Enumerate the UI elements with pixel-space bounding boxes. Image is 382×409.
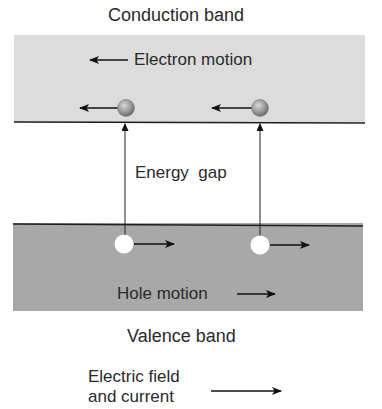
electric-field-label-line2: and current	[88, 388, 174, 405]
electron-motion-label: Electron motion	[134, 51, 252, 68]
hole-1	[115, 235, 134, 254]
valence-band-edge-line	[13, 224, 363, 226]
electron-1	[118, 100, 135, 117]
hole-2	[251, 236, 270, 255]
hole-motion-label: Hole motion	[117, 285, 208, 302]
conduction-band-edge-line	[14, 122, 365, 123]
electron-2	[252, 100, 269, 117]
electric-field-label-line1: Electric field	[88, 368, 180, 385]
energy-gap-label: Energy gap	[135, 164, 227, 181]
valence-band-label: Valence band	[127, 327, 236, 345]
